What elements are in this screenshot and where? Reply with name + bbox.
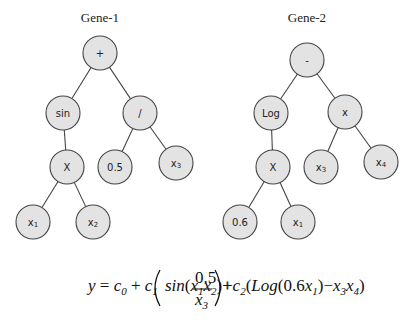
tree-node-g2-log: Log	[254, 96, 288, 130]
tree-node-g1-c05: 0.5	[98, 150, 132, 184]
tree-edge	[122, 128, 133, 151]
tree-edge	[328, 128, 338, 152]
gene-1-title: Gene-1	[81, 10, 119, 25]
node-label: Log	[262, 108, 280, 119]
tree-node-g1-root: +	[83, 36, 117, 70]
tree-node-g1-sin: sin	[46, 96, 80, 130]
tree-node-g1-div: /	[123, 96, 157, 130]
node-label: X	[270, 162, 277, 173]
node-label: 0.5	[107, 162, 123, 173]
node-label: sin	[56, 108, 70, 119]
node-label: x	[342, 107, 348, 118]
svg-text:0.5: 0.5	[195, 268, 216, 287]
tree-node-g1-x2: x2	[76, 205, 110, 239]
tree-edge	[109, 67, 130, 99]
combined-formula: y = c0 + c1 sin(x1x2)+ 0.5 x3 +c2(Log(0.…	[86, 268, 365, 311]
tree-edge	[150, 127, 166, 149]
gene-2-title: Gene-2	[288, 10, 326, 25]
tree-node-g2-x4: x4	[364, 145, 398, 179]
tree-node-g2-mul: x	[328, 95, 362, 129]
tree-node-g2-root: -	[290, 43, 324, 77]
tree-edge	[72, 67, 91, 98]
svg-text:y = c0 + c1: y = c0 + c1	[86, 276, 158, 297]
node-label: +	[96, 48, 104, 59]
tree-edge	[317, 74, 335, 99]
tree-edge	[74, 182, 85, 206]
svg-text:+c2(Log(0.6x1)−x3x4): +c2(Log(0.6x1)−x3x4)	[223, 276, 365, 297]
tree-edge	[272, 130, 273, 150]
tree-edge	[355, 126, 371, 148]
node-label: 0.6	[232, 217, 248, 228]
tree-node-g1-x3: x3	[159, 146, 193, 180]
tree-edge	[249, 182, 265, 208]
tree-edge	[42, 181, 58, 207]
tree-node-g1-mul: X	[50, 150, 84, 184]
node-label: X	[64, 162, 71, 173]
tree-node-g2-c06: 0.6	[223, 205, 257, 239]
expression-trees: Gene-1 Gene-2 +sin/X0.5x3x1x2-LogxXx3x40…	[0, 0, 412, 328]
tree-node-g2-X: X	[256, 150, 290, 184]
gene-expression-diagram: Gene-1 Gene-2 +sin/X0.5x3x1x2-LogxXx3x40…	[0, 0, 412, 328]
tree-node-g2-x3: x3	[304, 150, 338, 184]
tree-edge	[280, 182, 291, 206]
tree-node-g2-x1: x1	[281, 205, 315, 239]
tree-edge	[64, 130, 65, 150]
tree-node-g1-x1: x1	[16, 205, 50, 239]
tree-edge	[281, 74, 298, 99]
node-label: -	[305, 55, 309, 66]
